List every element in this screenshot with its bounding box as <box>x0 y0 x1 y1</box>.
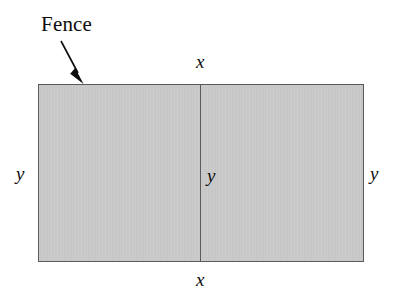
label-y-middle: y <box>207 166 215 185</box>
arrow-head-icon <box>70 68 83 84</box>
fence-annotation-label: Fence <box>41 14 92 35</box>
label-y-left: y <box>16 164 24 183</box>
interior-divider-line <box>200 84 201 262</box>
label-y-right: y <box>370 164 378 183</box>
arrow-shaft-icon <box>61 41 78 73</box>
fence-diagram: Fence x x y y y <box>0 0 395 301</box>
field-rectangle <box>38 84 364 262</box>
label-x-top: x <box>196 52 204 71</box>
label-x-bottom: x <box>196 270 204 289</box>
